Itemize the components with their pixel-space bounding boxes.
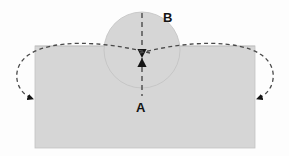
- label-b: B: [163, 10, 172, 25]
- diagram-canvas: B A: [0, 0, 289, 156]
- technical-diagram: B A: [0, 0, 289, 156]
- label-a: A: [136, 100, 146, 115]
